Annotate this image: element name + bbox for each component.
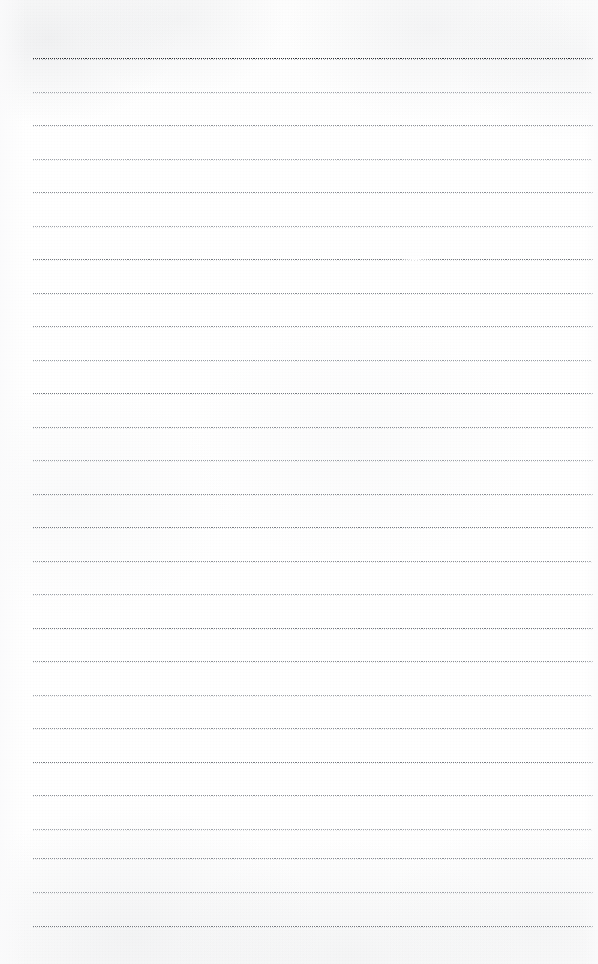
writing-area[interactable] <box>33 58 594 928</box>
notebook-page <box>0 0 598 964</box>
